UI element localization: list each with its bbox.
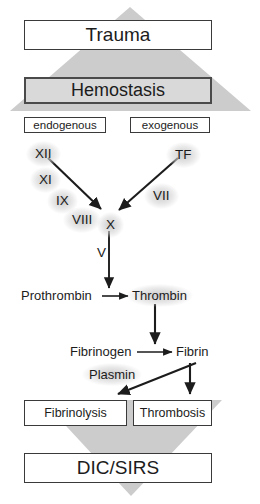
coagulation-cascade-diagram: Trauma Hemostasis endogenous exogenous F… <box>0 0 260 504</box>
endogenous-label: endogenous <box>33 119 96 131</box>
exogenous-label: exogenous <box>142 119 198 131</box>
dic-sirs-box: DIC/SIRS <box>24 453 212 483</box>
fibrinogen-label: Fibrinogen <box>70 345 131 358</box>
endogenous-box: endogenous <box>24 117 106 133</box>
fibrinolysis-box: Fibrinolysis <box>24 400 127 426</box>
factor-xii-node: XII <box>26 141 61 167</box>
thrombosis-label: Thrombosis <box>140 406 205 420</box>
factor-tf-node: TF <box>166 142 201 168</box>
factor-x-node: X <box>97 212 124 238</box>
thrombosis-box: Thrombosis <box>133 400 212 426</box>
hemostasis-box: Hemostasis <box>24 77 212 104</box>
factor-v-label: V <box>97 246 106 260</box>
diagram-graphics-layer <box>0 0 260 504</box>
prothrombin-label: Prothrombin <box>21 289 92 302</box>
thrombin-label: Thrombin <box>126 284 193 307</box>
factor-vii-node: VII <box>144 183 179 209</box>
dic-sirs-label: DIC/SIRS <box>77 457 159 479</box>
plasmin-label: Plasmin <box>82 363 142 386</box>
hemostasis-label: Hemostasis <box>71 80 165 101</box>
exogenous-box: exogenous <box>130 117 210 133</box>
fibrinolysis-label: Fibrinolysis <box>44 406 107 420</box>
trauma-label: Trauma <box>86 24 151 46</box>
trauma-box: Trauma <box>24 20 212 50</box>
factor-viii-node: VIII <box>63 207 101 233</box>
fibrin-label: Fibrin <box>176 345 209 358</box>
